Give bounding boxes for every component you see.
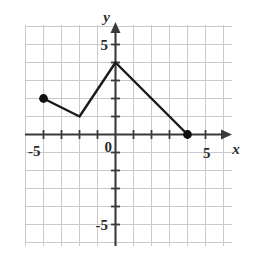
- y-axis-name-label: y: [101, 9, 110, 25]
- coordinate-plane-svg: -5 5 5 -5 0 y x: [0, 0, 257, 255]
- x-axis-name-label: x: [231, 141, 240, 157]
- graph-figure: -5 5 5 -5 0 y x: [0, 0, 257, 255]
- endpoint-dot-left: [39, 94, 48, 103]
- figure-background: [0, 0, 257, 255]
- origin-label: 0: [105, 139, 113, 155]
- y-axis-positive-tick-label: 5: [101, 37, 109, 53]
- x-axis-positive-tick-label: 5: [203, 145, 211, 161]
- endpoint-dot-right: [183, 130, 192, 139]
- x-axis-negative-tick-label: -5: [28, 143, 41, 159]
- y-axis-negative-tick-label: -5: [96, 217, 109, 233]
